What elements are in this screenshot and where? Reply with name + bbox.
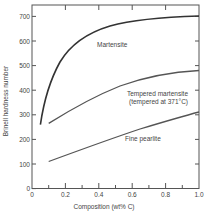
y-axis-title: Brinell hardness number xyxy=(2,65,9,136)
x-tick-1.0: 1.0 xyxy=(194,191,203,198)
y-tick-200: 200 xyxy=(19,136,30,143)
label-fine-pearlite: Fine pearlite xyxy=(125,135,161,143)
martensite-curve xyxy=(40,16,199,125)
y-tick-100: 100 xyxy=(19,161,30,168)
hardness-chart: 0 100 200 300 400 500 600 700 0 0.2 0.4 … xyxy=(0,0,206,222)
y-tick-labels: 0 100 200 300 400 500 600 700 xyxy=(19,13,30,192)
fine-pearlite-curve xyxy=(49,112,199,162)
x-tick-0.4: 0.4 xyxy=(94,191,103,198)
x-tick-0.2: 0.2 xyxy=(61,191,70,198)
label-tempered-condition: (tempered at 371°C) xyxy=(129,98,188,106)
x-tick-0.6: 0.6 xyxy=(128,191,137,198)
y-tick-600: 600 xyxy=(19,38,30,45)
y-tick-300: 300 xyxy=(19,111,30,118)
x-tick-0.8: 0.8 xyxy=(161,191,170,198)
y-tick-400: 400 xyxy=(19,87,30,94)
label-martensite: Martensite xyxy=(97,41,128,48)
x-tick-0: 0 xyxy=(30,191,34,198)
y-tick-500: 500 xyxy=(19,62,30,69)
x-axis-title: Composition (wt% C) xyxy=(73,203,134,211)
y-tick-700: 700 xyxy=(19,13,30,20)
x-tick-labels: 0 0.2 0.4 0.6 0.8 1.0 xyxy=(30,191,204,198)
